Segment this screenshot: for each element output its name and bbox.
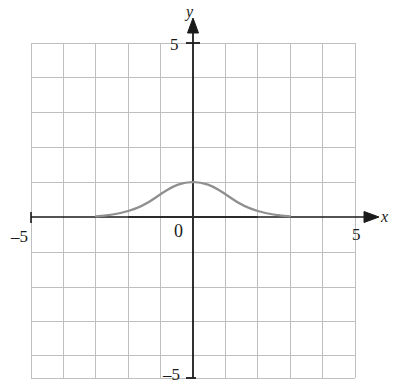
x-axis-tick-label-right: 5 bbox=[352, 226, 361, 243]
y-axis-label: y bbox=[186, 4, 193, 20]
y-axis-arrowhead bbox=[188, 18, 199, 33]
y-axis-tick-label-top: 5 bbox=[170, 36, 179, 53]
x-axis-tick-label-left: –5 bbox=[11, 228, 28, 245]
origin-label: 0 bbox=[174, 222, 183, 240]
coordinate-plane bbox=[0, 0, 394, 388]
graph-figure: y x 5 –5 –5 5 0 bbox=[0, 0, 394, 388]
axes bbox=[31, 18, 379, 378]
y-axis-tick-label-bottom: –5 bbox=[163, 366, 180, 383]
x-axis-arrowhead bbox=[364, 212, 379, 223]
x-axis-label: x bbox=[381, 209, 388, 225]
